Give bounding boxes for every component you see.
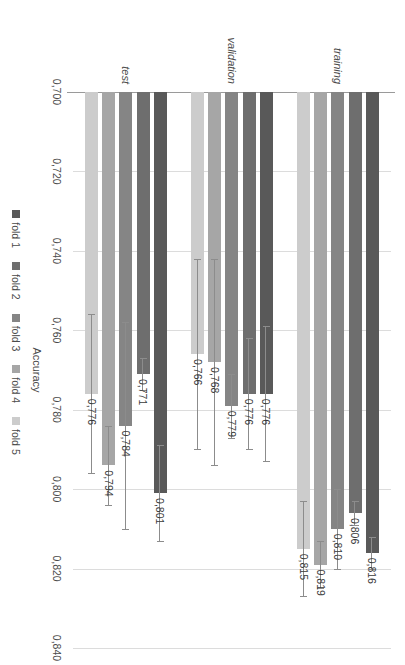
plot-area: 0,8160,8060,8100,8190,8150,7760,7760,779… xyxy=(73,92,391,648)
legend-label: fold 1 xyxy=(10,222,22,248)
bar-value-label: 0,806 xyxy=(349,518,361,544)
legend-swatch-icon xyxy=(12,262,20,270)
bar xyxy=(102,92,115,465)
error-bar-cap xyxy=(317,541,324,542)
bar-value-label: 0,779 xyxy=(226,411,238,437)
bar xyxy=(137,92,150,374)
error-bar-cap xyxy=(300,596,307,597)
bar xyxy=(314,92,327,565)
error-bar-cap xyxy=(211,259,218,260)
legend-swatch-icon xyxy=(12,365,20,373)
bar xyxy=(208,92,221,362)
error-bar-cap xyxy=(300,501,307,502)
bar xyxy=(349,92,362,513)
category-label: test xyxy=(120,0,132,84)
bar-value-label: 0,776 xyxy=(86,399,98,425)
value-axis-tick-label: 0,840 xyxy=(51,635,63,661)
value-axis-tick-label: 0,760 xyxy=(51,317,63,343)
bar xyxy=(243,92,256,394)
legend-item: fold 5 xyxy=(10,417,22,455)
error-bar-cap xyxy=(352,501,359,502)
category-label: training xyxy=(332,0,344,84)
error-bar-cap xyxy=(246,338,253,339)
rotated-figure-wrapper: 0,8160,8060,8100,8190,8150,7760,7760,779… xyxy=(0,0,405,665)
bar-value-label: 0,784 xyxy=(120,431,132,457)
error-bar-cap xyxy=(123,529,130,530)
error-bar-cap xyxy=(211,465,218,466)
error-bar-cap xyxy=(335,489,342,490)
error-bar xyxy=(303,501,304,596)
value-axis-tick-label: 0,700 xyxy=(51,79,63,105)
legend-item: fold 4 xyxy=(10,365,22,403)
bar-value-label: 0,815 xyxy=(298,554,310,580)
legend-label: fold 5 xyxy=(10,429,22,455)
value-axis-tick-label: 0,820 xyxy=(51,555,63,581)
error-bar-cap xyxy=(88,314,95,315)
error-bar-cap xyxy=(157,445,164,446)
error-bar-cap xyxy=(229,438,236,439)
bar xyxy=(332,92,345,529)
bar-value-label: 0,810 xyxy=(332,534,344,560)
bar xyxy=(366,92,379,553)
value-axis-tick-label: 0,780 xyxy=(51,397,63,423)
error-bar xyxy=(197,259,198,450)
bar-value-label: 0,768 xyxy=(209,367,221,393)
gridline xyxy=(73,648,391,649)
bar-value-label: 0,819 xyxy=(315,570,327,596)
error-bar xyxy=(248,338,249,449)
error-bar-cap xyxy=(369,537,376,538)
bar-value-label: 0,776 xyxy=(260,399,272,425)
bar-value-label: 0,816 xyxy=(366,558,378,584)
legend-swatch-icon xyxy=(12,314,20,322)
error-bar xyxy=(91,314,92,473)
legend-label: fold 4 xyxy=(10,377,22,403)
error-bar-cap xyxy=(140,358,147,359)
legend-label: fold 2 xyxy=(10,274,22,300)
bar-value-label: 0,776 xyxy=(243,399,255,425)
gridline xyxy=(73,569,391,570)
error-bar xyxy=(265,326,266,461)
legend-label: fold 3 xyxy=(10,326,22,352)
bar xyxy=(191,92,204,354)
error-bar-cap xyxy=(157,541,164,542)
legend-item: fold 1 xyxy=(10,210,22,248)
legend-swatch-icon xyxy=(12,210,20,218)
error-bar xyxy=(159,445,160,540)
value-axis-title: Accuracy xyxy=(31,347,43,392)
error-bar-cap xyxy=(88,473,95,474)
value-axis-tick-label: 0,720 xyxy=(51,158,63,184)
bar-value-label: 0,771 xyxy=(137,379,149,405)
bar xyxy=(260,92,273,394)
error-bar-cap xyxy=(229,374,236,375)
error-bar xyxy=(214,259,215,466)
bar-value-label: 0,766 xyxy=(192,359,204,385)
error-bar-cap xyxy=(105,426,112,427)
error-bar xyxy=(125,322,126,529)
error-bar-cap xyxy=(263,326,270,327)
bar xyxy=(226,92,239,406)
error-bar-cap xyxy=(335,569,342,570)
bar-value-label: 0,794 xyxy=(103,470,115,496)
error-bar-cap xyxy=(123,322,130,323)
bar xyxy=(120,92,133,426)
value-axis-tick-label: 0,800 xyxy=(51,476,63,502)
chart-legend: fold 1fold 2fold 3fold 4fold 5 xyxy=(10,0,22,665)
error-bar-cap xyxy=(263,461,270,462)
error-bar-cap xyxy=(246,449,253,450)
value-axis-tick-label: 0,740 xyxy=(51,238,63,264)
category-label: validation xyxy=(226,0,238,84)
error-bar-cap xyxy=(194,449,201,450)
bar-chart-figure: 0,8160,8060,8100,8190,8150,7760,7760,779… xyxy=(0,0,405,665)
error-bar-cap xyxy=(194,259,201,260)
legend-swatch-icon xyxy=(12,417,20,425)
bar xyxy=(297,92,310,549)
legend-item: fold 2 xyxy=(10,262,22,300)
error-bar-cap xyxy=(105,505,112,506)
bar xyxy=(85,92,98,394)
bar xyxy=(154,92,167,493)
bar-value-label: 0,801 xyxy=(154,498,166,524)
legend-item: fold 3 xyxy=(10,314,22,352)
